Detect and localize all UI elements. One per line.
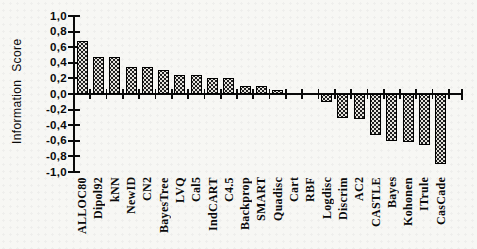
x-axis-label: RBF xyxy=(303,177,317,249)
bar xyxy=(386,94,397,141)
x-axis-label: Bayes xyxy=(385,177,399,249)
bar-chart: Information Score 1,00,80,60,40,20,0-0,2… xyxy=(0,0,477,249)
x-tick xyxy=(220,89,222,99)
x-tick xyxy=(399,89,401,99)
bar xyxy=(142,67,153,94)
x-tick xyxy=(383,89,385,99)
x-tick xyxy=(285,89,287,99)
x-tick xyxy=(269,89,271,99)
y-tick xyxy=(68,15,80,17)
x-tick xyxy=(432,89,434,99)
bar xyxy=(256,86,267,94)
x-axis-label: CASTLE xyxy=(369,177,383,249)
x-tick xyxy=(448,89,450,99)
x-axis-label: IndCART xyxy=(206,177,220,249)
x-tick xyxy=(367,89,369,99)
bar xyxy=(174,75,185,95)
x-axis-label: BayesTree xyxy=(157,177,171,249)
x-axis-label: AC2 xyxy=(352,177,366,249)
bar xyxy=(272,90,283,94)
x-axis-label: LVQ xyxy=(173,177,187,249)
x-tick xyxy=(138,89,140,99)
x-tick xyxy=(155,89,157,99)
y-tick xyxy=(68,171,80,173)
x-axis-label: Dipol92 xyxy=(91,177,105,249)
x-axis-label: NewID xyxy=(124,177,138,249)
x-axis-label: kNN xyxy=(108,177,122,249)
x-tick xyxy=(318,89,320,99)
x-tick xyxy=(350,89,352,99)
y-tick xyxy=(68,140,80,142)
x-axis-label: ALLOC80 xyxy=(75,177,89,249)
bar xyxy=(435,94,446,164)
bar xyxy=(207,78,218,94)
x-tick xyxy=(187,89,189,99)
bar xyxy=(354,94,365,119)
bar xyxy=(321,94,332,102)
x-axis-endcap xyxy=(461,89,463,100)
bar xyxy=(223,78,234,94)
x-axis-label: ITrule xyxy=(417,177,431,249)
bar xyxy=(158,70,169,94)
x-tick xyxy=(106,89,108,99)
bar xyxy=(77,41,88,94)
x-axis-label: Quadisc xyxy=(271,177,285,249)
x-tick xyxy=(73,89,75,99)
y-tick xyxy=(68,31,80,33)
x-tick xyxy=(122,89,124,99)
x-axis-label: Logdisc xyxy=(320,177,334,249)
x-tick xyxy=(236,89,238,99)
x-axis-label: Discrim xyxy=(336,177,350,249)
bar xyxy=(370,94,381,135)
bar xyxy=(337,94,348,118)
bar xyxy=(240,86,251,94)
x-axis-label: Kohonen xyxy=(401,177,415,249)
bar xyxy=(419,94,430,145)
bar xyxy=(191,75,202,95)
x-axis-label: CasCade xyxy=(434,177,448,249)
x-tick xyxy=(171,89,173,99)
x-tick xyxy=(204,89,206,99)
x-tick xyxy=(334,89,336,99)
x-tick xyxy=(301,89,303,99)
y-tick xyxy=(68,155,80,157)
y-tick xyxy=(68,124,80,126)
bar xyxy=(109,57,120,94)
bar xyxy=(93,57,104,94)
x-tick xyxy=(415,89,417,99)
x-axis-label: SMART xyxy=(254,177,268,249)
x-axis-label: Cart xyxy=(287,177,301,249)
x-axis-label: Cal5 xyxy=(189,177,203,249)
x-axis-label: CN2 xyxy=(140,177,154,249)
x-axis-label: Backprop xyxy=(238,177,252,249)
x-tick xyxy=(89,89,91,99)
bar xyxy=(126,67,137,94)
x-axis-label: C4.5 xyxy=(222,177,236,249)
y-tick xyxy=(68,109,80,111)
bar xyxy=(403,94,414,142)
x-tick xyxy=(252,89,254,99)
